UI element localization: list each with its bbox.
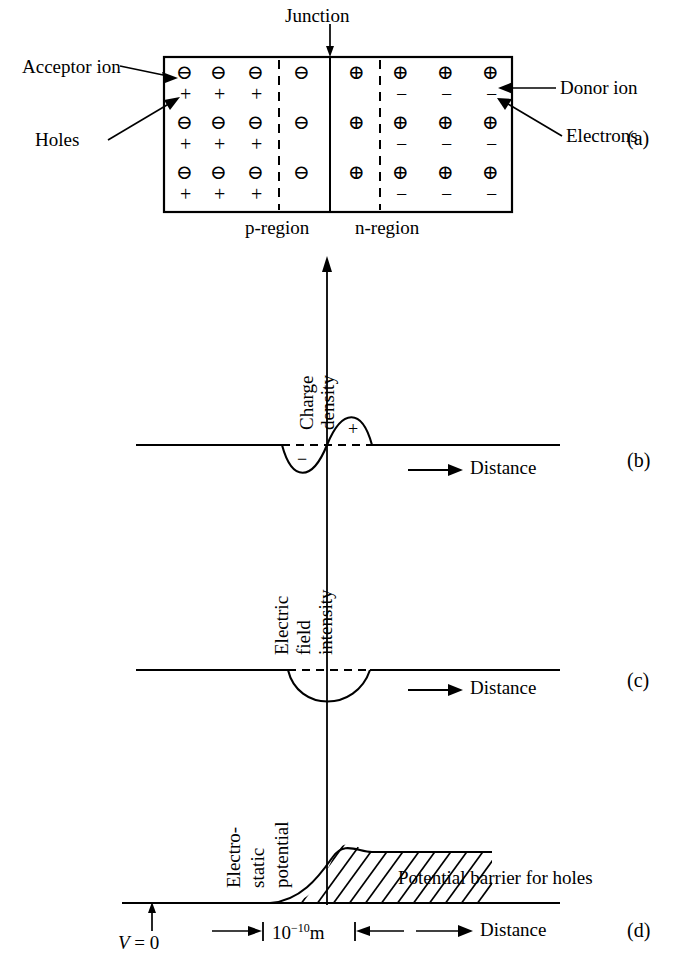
panel-d-distance-arrow-head bbox=[458, 925, 473, 937]
v-zero-value: = 0 bbox=[130, 932, 160, 953]
width-exponent: −10 bbox=[291, 921, 310, 935]
potential-barrier-label: Potential barrier for holes bbox=[398, 868, 593, 887]
panel-label-d: (d) bbox=[627, 920, 650, 940]
width-mantissa: 10 bbox=[272, 922, 291, 943]
width-unit: m bbox=[310, 922, 325, 943]
panel-d-y-axis-label-line3: potential bbox=[272, 822, 291, 888]
width-right-arrow-head bbox=[356, 926, 370, 936]
depletion-width-label: 10−10m bbox=[272, 922, 325, 942]
panel-d-vector-layer bbox=[0, 0, 690, 965]
v-zero-label: V = 0 bbox=[118, 932, 159, 954]
v-zero-symbol: V bbox=[118, 932, 130, 953]
width-left-arrow-head bbox=[248, 926, 262, 936]
pn-junction-figure: Acceptor ion Holes Donor ion Electrons J… bbox=[0, 0, 690, 965]
panel-d-y-axis-label-line1: Electro- bbox=[224, 827, 243, 888]
panel-d-distance-label: Distance bbox=[480, 920, 546, 939]
panel-d-y-axis-label-line2: static bbox=[248, 848, 267, 888]
